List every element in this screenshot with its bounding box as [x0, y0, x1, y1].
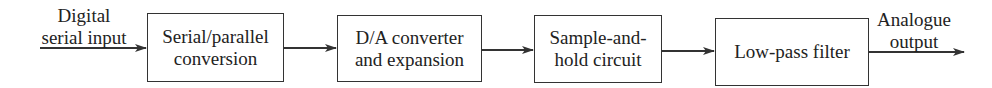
serial-parallel-conversion-block: Serial/parallel conversion: [147, 13, 284, 82]
sample-and-hold-block: Sample-and- hold circuit: [534, 15, 662, 83]
input-label: Digital serial input: [30, 5, 138, 49]
dac-block-diagram: Digital serial input Serial/parallel con…: [0, 0, 992, 88]
block-label: Serial/parallel conversion: [162, 26, 269, 70]
block-label: Low-pass filter: [734, 41, 850, 63]
block-label: Sample-and- hold circuit: [549, 27, 646, 71]
block-label: D/A converter and expansion: [355, 27, 464, 71]
da-converter-block: D/A converter and expansion: [337, 15, 482, 82]
low-pass-filter-block: Low-pass filter: [715, 18, 869, 86]
output-label: Analogue output: [868, 9, 960, 53]
